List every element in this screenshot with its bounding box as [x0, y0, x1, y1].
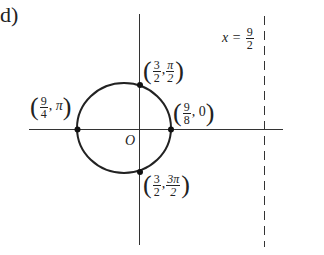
asymptote-label: x = 92 — [222, 26, 255, 51]
asymptote-var: x = — [222, 30, 241, 45]
fraction: π2 — [166, 59, 174, 84]
origin-label: O — [125, 134, 135, 148]
fraction-num: π — [166, 59, 174, 72]
circle-curve — [77, 83, 171, 173]
coord-value: π — [56, 98, 63, 113]
fraction-den: 2 — [154, 186, 160, 198]
fraction: 3π2 — [166, 173, 180, 198]
paren: ) — [175, 56, 184, 85]
fraction-num: 9 — [183, 101, 191, 114]
fraction-num: 3π — [166, 173, 180, 186]
asymptote-fraction: 92 — [246, 26, 254, 51]
fraction: 98 — [183, 101, 191, 126]
fraction-den: 2 — [170, 186, 176, 198]
fraction-den: 8 — [184, 114, 190, 126]
polar-diagram — [0, 0, 324, 255]
fraction-den: 2 — [167, 72, 173, 84]
fraction: 32 — [153, 173, 161, 198]
fraction-num: 9 — [40, 95, 48, 108]
fraction-den: 2 — [247, 39, 253, 51]
point-left — [75, 127, 81, 133]
point-label-left: (94, π) — [30, 94, 71, 120]
point-label-bottom: (32,3π2) — [143, 172, 190, 198]
paren: ( — [173, 98, 182, 127]
paren: ) — [63, 92, 72, 121]
fraction-den: 2 — [154, 72, 160, 84]
fraction: 32 — [153, 59, 161, 84]
paren: ( — [143, 170, 152, 199]
fraction: 94 — [40, 95, 48, 120]
point-label-right: (98, 0) — [173, 100, 214, 126]
coord-value: 0 — [199, 104, 206, 119]
paren: ( — [143, 56, 152, 85]
fraction-num: 3 — [153, 59, 161, 72]
point-right — [168, 127, 174, 133]
fraction-den: 4 — [41, 108, 47, 120]
paren: ) — [206, 98, 215, 127]
part-label: d) — [0, 4, 18, 26]
paren: ) — [181, 170, 190, 199]
paren: ( — [30, 92, 39, 121]
point-label-top: (32,π2) — [143, 58, 184, 84]
fraction-num: 3 — [153, 173, 161, 186]
